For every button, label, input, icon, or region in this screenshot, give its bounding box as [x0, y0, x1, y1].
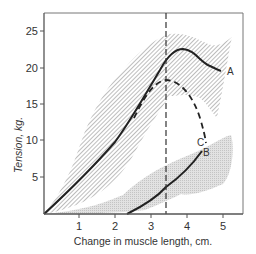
curve-c-label: C: [197, 137, 204, 148]
y-tick-20: 20: [26, 62, 38, 74]
y-tick-15: 15: [26, 98, 38, 110]
tension-length-chart: 1 2 3 4 5 5 10 15 20 25 Change in muscle…: [0, 0, 256, 254]
y-tick-25: 25: [26, 25, 38, 37]
curve-b-label: B: [203, 147, 210, 158]
x-tick-3: 3: [148, 220, 154, 232]
y-axis-title: Tension, kg.: [12, 117, 24, 173]
y-tick-5: 5: [32, 171, 38, 183]
x-tick-4: 4: [184, 220, 190, 232]
x-tick-1: 1: [76, 220, 82, 232]
curve-a-label: A: [227, 66, 234, 77]
x-tick-5: 5: [220, 220, 226, 232]
x-tick-2: 2: [112, 220, 118, 232]
x-axis-title: Change in muscle length, cm.: [74, 235, 212, 247]
y-tick-10: 10: [26, 134, 38, 146]
